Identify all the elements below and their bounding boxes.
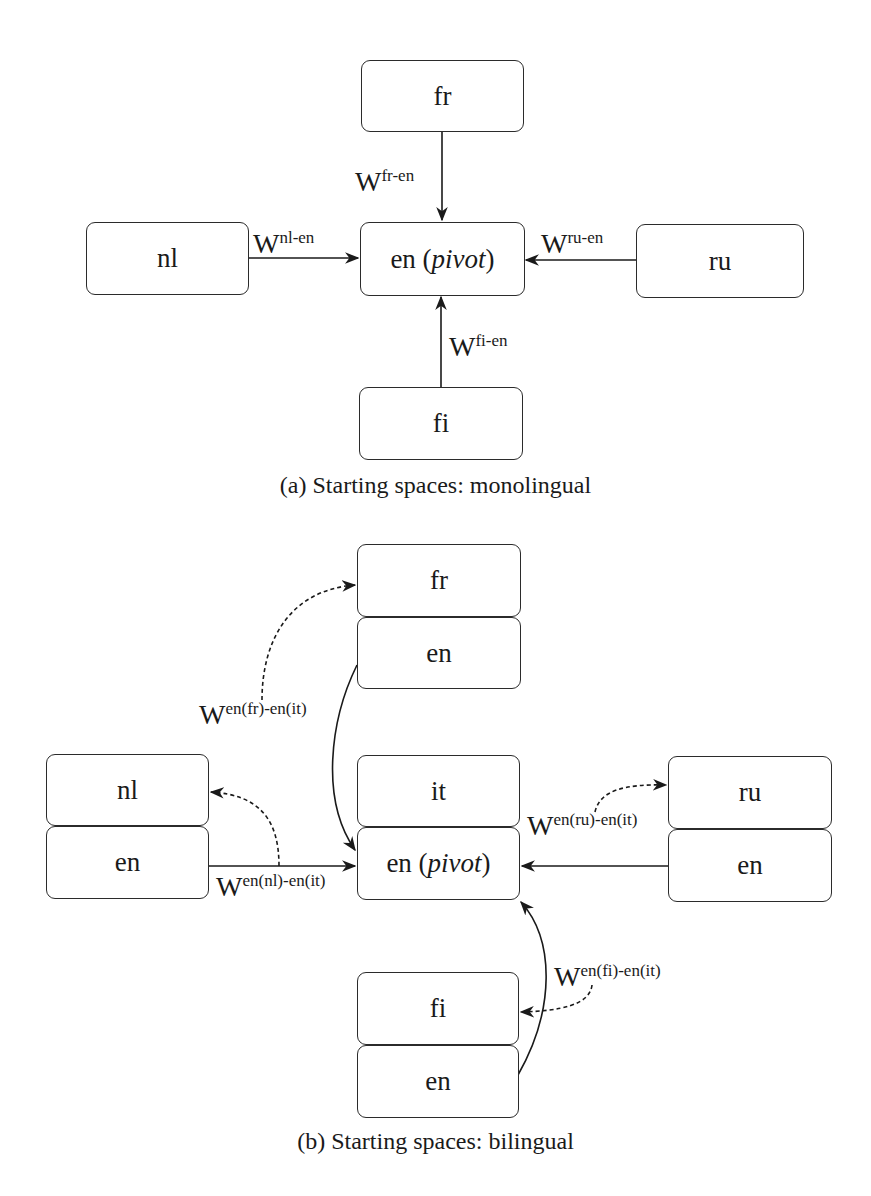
node-fi-label: fi [433, 408, 450, 439]
arrow-en-fi-to-pivot [518, 902, 546, 1075]
edge-label-sup: en(nl)-en(it) [242, 871, 325, 890]
edge-label-base: W [355, 166, 381, 197]
node-label: it [431, 776, 446, 807]
node-pivot-word: pivot [432, 244, 486, 275]
edge-label-base: W [554, 961, 580, 992]
node-fr-label: fr [434, 81, 452, 112]
edge-label-sup: en(ru)-en(it) [553, 810, 637, 829]
node-pivot-paren-open: ( [416, 244, 432, 275]
node-fi: fi [359, 387, 523, 460]
edge-label-en-nl: Wen(nl)-en(it) [216, 873, 326, 901]
dashed-arrow-to-nl [211, 792, 279, 866]
node-pivot-paren-close: ) [486, 244, 495, 275]
node-fi-en: en [357, 1045, 519, 1118]
arrow-en-fr-to-pivot [333, 665, 357, 850]
edge-label-en-fi: Wen(fi)-en(it) [554, 963, 661, 991]
node-nl-label: nl [157, 243, 178, 274]
node-label: en [426, 638, 451, 669]
node-label: en [115, 847, 140, 878]
dashed-arrow-to-fr [262, 585, 355, 700]
node-label: en [425, 1066, 450, 1097]
node-nl-en: en [46, 826, 209, 899]
node-fr-top: fr [357, 544, 521, 617]
node-label: en [737, 850, 762, 881]
node-ru-label: ru [709, 246, 732, 277]
edge-label-sup: en(fr)-en(it) [225, 699, 306, 718]
edge-label-fi-en: Wfi-en [449, 333, 508, 361]
node-pivot-lang: en [386, 848, 411, 879]
edge-label-en-fr: Wen(fr)-en(it) [199, 701, 307, 729]
node-en-pivot: en (pivot) [360, 222, 525, 296]
edge-label-sup: ru-en [567, 228, 603, 247]
edge-label-sup: en(fi)-en(it) [580, 961, 660, 980]
edge-label-fr-en: Wfr-en [355, 168, 414, 196]
edge-label-base: W [541, 228, 567, 259]
node-fi-top: fi [357, 972, 519, 1045]
node-label: nl [117, 775, 138, 806]
node-fr: fr [361, 60, 524, 132]
node-en-pivot-b: en (pivot) [357, 827, 520, 900]
node-fr-en: en [357, 617, 521, 689]
node-label: ru [739, 777, 762, 808]
edge-label-sup: fi-en [475, 331, 507, 350]
node-it-top: it [357, 755, 520, 827]
caption-a: (a) Starting spaces: monolingual [0, 472, 871, 499]
edge-label-sup: fr-en [381, 166, 414, 185]
node-nl: nl [86, 222, 249, 295]
edge-label-ru-en: Wru-en [541, 230, 603, 258]
node-nl-top: nl [46, 754, 209, 826]
dashed-arrow-to-ru [595, 785, 666, 812]
node-pivot-paren-close: ) [482, 848, 491, 879]
node-label: fr [430, 565, 448, 596]
caption-b: (b) Starting spaces: bilingual [0, 1128, 871, 1155]
node-ru: ru [636, 224, 804, 298]
edge-label-base: W [449, 331, 475, 362]
node-ru-en: en [668, 829, 832, 902]
edge-label-base: W [216, 871, 242, 902]
edge-label-base: W [199, 699, 225, 730]
edge-label-en-ru: Wen(ru)-en(it) [527, 812, 637, 840]
node-pivot-word: pivot [428, 848, 482, 879]
node-pivot-paren-open: ( [412, 848, 428, 879]
node-pivot-lang: en [390, 244, 415, 275]
edge-label-sup: nl-en [279, 228, 314, 247]
edge-label-base: W [527, 810, 553, 841]
node-label: fi [430, 993, 447, 1024]
edge-label-nl-en: Wnl-en [253, 230, 314, 258]
node-ru-top: ru [668, 756, 832, 829]
edge-label-base: W [253, 228, 279, 259]
